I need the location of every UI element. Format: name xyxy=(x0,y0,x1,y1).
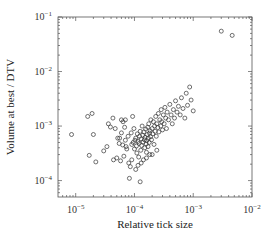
y-tick-label: 10−2 xyxy=(35,65,53,77)
data-point xyxy=(123,138,127,142)
data-point xyxy=(184,91,188,95)
y-axis: 10−410−310−210−1 xyxy=(35,10,252,193)
data-point xyxy=(154,134,158,138)
x-tick-label: 10−2 xyxy=(243,203,261,215)
data-point xyxy=(91,133,95,137)
data-points xyxy=(70,29,235,184)
data-point xyxy=(123,125,127,129)
data-point xyxy=(178,113,182,117)
data-point xyxy=(113,127,117,131)
x-tick-label: 10−4 xyxy=(126,203,144,215)
data-point xyxy=(153,129,157,133)
data-point xyxy=(156,111,160,115)
data-point xyxy=(188,85,192,89)
data-point xyxy=(132,127,136,131)
data-point xyxy=(150,153,154,157)
plot-frame xyxy=(58,17,252,197)
data-point xyxy=(170,122,174,126)
y-tick-label: 10−4 xyxy=(35,174,53,186)
data-point xyxy=(171,108,175,112)
data-point xyxy=(181,106,185,110)
data-point xyxy=(139,161,143,165)
data-point xyxy=(140,124,144,128)
data-point xyxy=(186,103,190,107)
data-point xyxy=(189,98,193,102)
data-point xyxy=(138,180,142,184)
data-point xyxy=(87,153,91,157)
data-point xyxy=(131,114,135,118)
data-point xyxy=(219,29,223,33)
data-point xyxy=(115,156,119,160)
data-point xyxy=(125,147,129,151)
data-point xyxy=(119,159,123,163)
data-point xyxy=(169,113,173,117)
data-point xyxy=(108,125,112,129)
data-point xyxy=(102,149,106,153)
data-point xyxy=(155,148,159,152)
data-point xyxy=(105,145,109,149)
data-point xyxy=(128,165,132,169)
data-point xyxy=(161,128,165,132)
data-point xyxy=(90,111,94,115)
data-point xyxy=(126,134,130,138)
data-point xyxy=(176,104,180,108)
data-point xyxy=(159,108,163,112)
data-point xyxy=(138,129,142,133)
scatter-chart: 10−510−410−310−2 10−410−310−210−1 Relati… xyxy=(0,0,270,237)
y-tick-label: 10−1 xyxy=(35,10,53,22)
data-point xyxy=(174,99,178,103)
x-axis-label: Relative tick size xyxy=(117,218,193,230)
data-point xyxy=(132,147,136,151)
data-point xyxy=(135,151,139,155)
data-point xyxy=(70,133,74,137)
data-point xyxy=(173,116,177,120)
data-point xyxy=(129,131,133,135)
data-point xyxy=(111,116,115,120)
data-point xyxy=(144,156,148,160)
data-point xyxy=(191,109,195,113)
data-point xyxy=(86,114,90,118)
data-point xyxy=(119,131,123,135)
data-point xyxy=(230,33,234,37)
y-axis-label: Volume at best / DTV xyxy=(4,59,16,155)
data-point xyxy=(122,154,126,158)
x-tick-label: 10−3 xyxy=(185,203,203,215)
data-point xyxy=(168,102,172,106)
data-point xyxy=(179,96,183,100)
data-point xyxy=(164,127,168,131)
data-point xyxy=(134,167,138,171)
data-point xyxy=(127,176,131,180)
data-point xyxy=(183,116,187,120)
data-point xyxy=(94,160,98,164)
data-point xyxy=(130,158,134,162)
data-point xyxy=(137,155,141,159)
data-point xyxy=(139,148,143,152)
data-point xyxy=(165,110,169,114)
y-tick-label: 10−3 xyxy=(35,119,53,131)
data-point xyxy=(152,142,156,146)
data-point xyxy=(163,105,167,109)
x-tick-label: 10−5 xyxy=(67,203,85,215)
